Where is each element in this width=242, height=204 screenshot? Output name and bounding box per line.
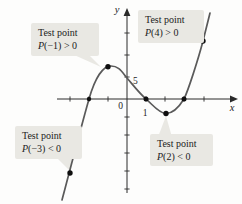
callout-test-point-p-neg3: Test point P(−3) < 0 [15, 126, 82, 159]
point-test-p-neg3 [67, 170, 72, 175]
polynomial-sign-graph-figure: 051xy Test point P(−1) > 0 Test point P(… [0, 0, 242, 204]
math-expr: (2) < 0 [163, 151, 190, 162]
y-axis-arrow-icon [124, 8, 131, 16]
callout-line2: P(−3) < 0 [22, 142, 77, 155]
x-axis-label: x [229, 102, 235, 113]
callout-test-point-p-4: Test point P(4) > 0 [138, 10, 204, 43]
math-expr: (4) > 0 [151, 27, 178, 38]
math-expr: (−3) < 0 [28, 143, 61, 154]
callout-line2: P(2) < 0 [157, 150, 208, 163]
y-axis-label: y [114, 4, 120, 15]
y-tick-label-5: 5 [133, 76, 138, 86]
callout-line2: P(−1) > 0 [38, 39, 94, 52]
callout-line2: P(4) > 0 [145, 26, 199, 39]
callout-test-point-p-neg1: Test point P(−1) > 0 [31, 23, 99, 56]
point-zero-3 [182, 97, 187, 102]
math-expr: (−1) > 0 [44, 40, 77, 51]
point-test-p-neg1 [105, 64, 110, 69]
point-zero-1 [144, 97, 149, 102]
point-test-p-2 [163, 111, 168, 116]
origin-label: 0 [118, 101, 123, 111]
x-tick-label-1: 1 [143, 108, 148, 118]
callout-test-point-p-2: Test point P(2) < 0 [150, 134, 213, 166]
callout-line1: Test point [157, 137, 208, 150]
callout-line1: Test point [38, 26, 94, 39]
point-zero-neg2 [87, 97, 91, 101]
callout-line1: Test point [145, 13, 199, 26]
callout-line1: Test point [22, 129, 77, 142]
